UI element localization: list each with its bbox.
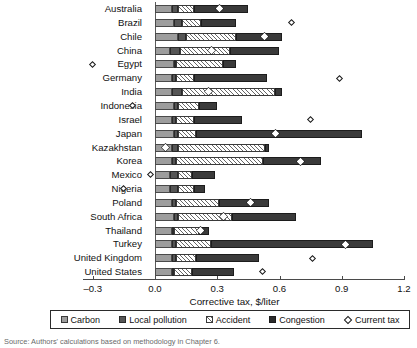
current-tax-marker	[307, 116, 314, 123]
chart-row: Indonesia	[0, 99, 417, 113]
x-tick-label: 0.0	[148, 283, 161, 294]
chart-row: Nigeria	[0, 182, 417, 196]
bar-segment-congestion	[194, 74, 267, 82]
stacked-bar	[155, 47, 280, 55]
stacked-bar	[155, 74, 267, 82]
x-tick-label: 0.3	[211, 283, 224, 294]
bar-segment-accident	[176, 60, 224, 68]
stacked-bar	[155, 144, 269, 152]
bar-segment-local	[178, 33, 186, 41]
x-axis-title: Corrective tax, $/liter	[0, 296, 417, 307]
stacked-bar	[155, 116, 242, 124]
bar-segment-congestion	[223, 60, 235, 68]
legend-item: Accident	[206, 315, 251, 325]
stacked-bar	[155, 254, 259, 262]
x-tick-label: 1.2	[397, 283, 410, 294]
current-tax-marker	[309, 255, 316, 262]
bar-segment-congestion	[192, 268, 234, 276]
chart-row: Australia	[0, 2, 417, 16]
stacked-bar	[155, 102, 217, 110]
category-label: Indonesia	[0, 99, 142, 113]
chart-row: Poland	[0, 196, 417, 210]
legend-item: Congestion	[269, 315, 325, 325]
stacked-bar	[155, 268, 234, 276]
source-note: Source: Authors' calculations based on m…	[4, 337, 220, 346]
bar-segment-carbon	[155, 213, 174, 221]
chart-row: United Kingdom	[0, 251, 417, 265]
category-label: Kazakhstan	[0, 141, 142, 155]
category-label: United Kingdom	[0, 251, 142, 265]
bar-segment-congestion	[192, 171, 215, 179]
x-tick	[155, 276, 156, 280]
stacked-bar	[155, 19, 236, 27]
category-label: Turkey	[0, 237, 142, 251]
bar-segment-accident	[176, 240, 211, 248]
current-tax-diamond-marker	[344, 315, 352, 323]
bar-segment-accident	[178, 5, 195, 13]
category-label: India	[0, 85, 142, 99]
bar-segment-local	[170, 171, 178, 179]
category-label: China	[0, 44, 142, 58]
chart-row: Israel	[0, 113, 417, 127]
chart-row: Thailand	[0, 224, 417, 238]
x-tick	[280, 276, 281, 280]
chart-row: India	[0, 85, 417, 99]
category-label: Germany	[0, 71, 142, 85]
x-tick	[342, 276, 343, 280]
bar-segment-congestion	[275, 88, 281, 96]
corrective-tax-chart: AustraliaBrazilChileChinaEgyptGermanyInd…	[0, 0, 417, 348]
bar-segment-accident	[176, 116, 195, 124]
bar-segment-accident	[178, 185, 195, 193]
bar-segment-accident	[182, 88, 275, 96]
stacked-bar	[155, 60, 236, 68]
category-label: Mexico	[0, 168, 142, 182]
legend-item: Current tax	[344, 315, 400, 325]
bar-segment-carbon	[155, 254, 172, 262]
carbon-swatch	[61, 316, 68, 323]
legend-label: Carbon	[71, 315, 101, 325]
bar-segment-local	[172, 88, 182, 96]
local-pollution-swatch	[119, 316, 126, 323]
chart-row: South Africa	[0, 210, 417, 224]
bar-segment-carbon	[155, 60, 174, 68]
bar-segment-accident	[178, 130, 197, 138]
plot-area: AustraliaBrazilChileChinaEgyptGermanyInd…	[0, 0, 417, 280]
x-tick-label: –0.3	[83, 283, 102, 294]
bar-segment-accident	[174, 268, 193, 276]
bar-segment-carbon	[155, 130, 174, 138]
legend-label: Congestion	[279, 315, 325, 325]
chart-row: Germany	[0, 71, 417, 85]
x-tick	[217, 276, 218, 280]
bar-segment-accident	[180, 47, 230, 55]
bar-segment-carbon	[155, 268, 172, 276]
category-label: United States	[0, 265, 142, 279]
legend-label: Local pollution	[129, 315, 187, 325]
category-label: Chile	[0, 30, 142, 44]
bar-segment-carbon	[155, 240, 172, 248]
chart-row: Turkey	[0, 237, 417, 251]
x-axis-line	[83, 279, 405, 280]
bar-segment-local	[170, 47, 180, 55]
bar-segment-congestion	[196, 130, 362, 138]
chart-row: Mexico	[0, 168, 417, 182]
stacked-bar	[155, 5, 248, 13]
chart-row: Chile	[0, 30, 417, 44]
bar-segment-carbon	[155, 19, 174, 27]
bar-segment-carbon	[155, 157, 172, 165]
category-label: Israel	[0, 113, 142, 127]
category-label: Japan	[0, 127, 142, 141]
accident-swatch	[206, 316, 213, 323]
bar-segment-congestion	[201, 19, 236, 27]
stacked-bar	[155, 130, 363, 138]
bar-segment-accident	[176, 74, 195, 82]
chart-row: China	[0, 44, 417, 58]
bar-segment-carbon	[155, 185, 170, 193]
x-tick-label: 0.6	[273, 283, 286, 294]
bar-segment-congestion	[194, 116, 242, 124]
category-label: Thailand	[0, 224, 142, 238]
congestion-swatch	[269, 316, 276, 323]
current-tax-marker	[336, 75, 343, 82]
bar-segment-accident	[178, 144, 265, 152]
current-tax-marker	[147, 171, 154, 178]
x-axis-title-text: Corrective tax, $/liter	[190, 296, 280, 307]
